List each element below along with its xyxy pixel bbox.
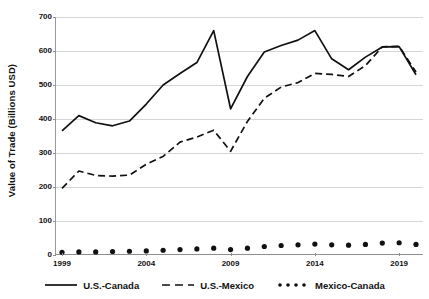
- x-axis-tick-mark: [62, 253, 63, 256]
- x-axis-tick-mark: [315, 253, 316, 256]
- legend-item-label: Mexico-Canada: [315, 280, 385, 291]
- data-point-marker: [295, 242, 300, 247]
- data-point-marker: [279, 243, 284, 248]
- data-point-marker: [110, 249, 115, 254]
- data-point-marker: [93, 249, 98, 254]
- x-axis-tick-label: 2004: [137, 259, 155, 268]
- x-axis-tick-label: 2014: [306, 259, 324, 268]
- legend-item-u-s-canada[interactable]: U.S.-Canada: [44, 280, 139, 291]
- data-point-marker: [380, 241, 385, 246]
- data-point-marker: [363, 242, 368, 247]
- x-axis-tick-label: 1999: [53, 259, 71, 268]
- data-point-marker: [76, 249, 81, 254]
- legend-item-label: U.S.-Canada: [83, 280, 139, 291]
- y-axis-tick-label: 700: [18, 13, 52, 21]
- x-axis-tick-label: 2009: [222, 259, 240, 268]
- x-axis-tick-label: 2019: [390, 259, 408, 268]
- dotted-line-swatch: [276, 280, 310, 290]
- y-axis-tick-label: 500: [18, 81, 52, 89]
- data-point-marker: [161, 248, 166, 253]
- series-u-s-canada: [62, 31, 416, 131]
- legend-item-mexico-canada[interactable]: Mexico-Canada: [276, 280, 385, 291]
- line-chart: Value of Trade (Billions USD) 0100200300…: [0, 0, 429, 299]
- y-axis-tick-label: 100: [18, 217, 52, 225]
- x-axis-tick-group: 19992004200920142019: [55, 256, 423, 272]
- x-axis-tick-mark: [231, 253, 232, 256]
- data-point-marker: [245, 246, 250, 251]
- legend-item-u-s-mexico[interactable]: U.S.-Mexico: [161, 280, 254, 291]
- legend-item-label: U.S.-Mexico: [200, 280, 254, 291]
- data-point-marker: [211, 246, 216, 251]
- data-point-marker: [329, 242, 334, 247]
- data-point-marker: [228, 247, 233, 252]
- data-point-marker: [413, 242, 418, 247]
- data-point-marker: [194, 246, 199, 251]
- y-axis-tick-label: 200: [18, 183, 52, 191]
- data-point-marker: [397, 240, 402, 245]
- series-mexico-canada: [59, 240, 418, 255]
- x-axis-tick-mark: [146, 253, 147, 256]
- data-point-marker: [312, 242, 317, 247]
- data-point-marker: [262, 244, 267, 249]
- y-axis-tick-group: 0100200300400500600700: [12, 17, 52, 255]
- plot-area: [55, 17, 423, 255]
- series-u-s-mexico: [62, 46, 416, 188]
- solid-line-swatch: [44, 280, 78, 290]
- chart-legend: U.S.-CanadaU.S.-MexicoMexico-Canada: [0, 274, 429, 296]
- dashed-line-swatch: [161, 280, 195, 290]
- y-axis-tick-label: 600: [18, 47, 52, 55]
- series-group: [55, 17, 423, 255]
- data-point-marker: [177, 247, 182, 252]
- y-axis-tick-label: 400: [18, 115, 52, 123]
- x-axis-tick-mark: [399, 253, 400, 256]
- data-point-marker: [127, 249, 132, 254]
- y-axis-tick-label: 0: [18, 251, 52, 259]
- data-point-marker: [346, 243, 351, 248]
- y-axis-tick-label: 300: [18, 149, 52, 157]
